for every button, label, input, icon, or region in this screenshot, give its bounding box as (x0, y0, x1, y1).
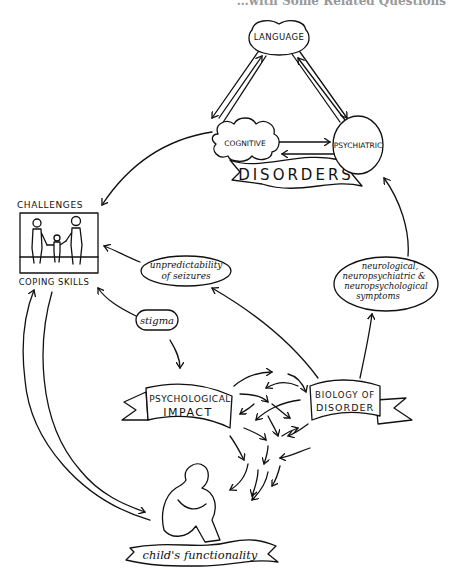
arrow-unpredictability-to-challenges (104, 246, 140, 262)
psych-impact-line1: PSYCHOLOGICAL (149, 394, 231, 404)
biology-banner: BIOLOGY OF DISORDER (310, 380, 412, 424)
arrows-to-child (230, 464, 280, 500)
arrow-stigma-to-psych-impact (170, 340, 180, 368)
symptoms-line4: symptoms (356, 291, 400, 301)
node-cognitive: COGNITIVE (212, 118, 279, 161)
challenges-label: CHALLENGES (17, 200, 83, 210)
node-language: LANGUAGE (249, 21, 309, 55)
psychiatric-label: PSYCHIATRIC (334, 141, 382, 150)
coping-skills-label: COPING SKILLS (19, 277, 90, 287)
symptoms-line3: neuropsychological (344, 281, 428, 291)
functionality-banner: child's functionality (126, 540, 278, 566)
psych-impact-banner: PSYCHOLOGICAL IMPACT (122, 384, 232, 428)
node-unpredictability: unpredictability of seizures (141, 256, 231, 286)
arrow-symptoms-to-disorders (384, 178, 408, 256)
disorders-label: DISORDERS (238, 166, 354, 184)
arrow-biology-to-unpredictability (212, 288, 318, 378)
symptoms-line1: neurological, (362, 261, 419, 271)
node-stigma: stigma (136, 310, 178, 330)
challenges-box: CHALLENGES COPING SKILLS (17, 200, 98, 287)
arrow-cognitive-to-challenges (102, 132, 212, 205)
cognitive-label: COGNITIVE (224, 139, 266, 148)
functionality-label: child's functionality (143, 548, 258, 562)
node-symptoms: neurological, neuropsychiatric & neurops… (334, 257, 438, 311)
biology-line2: DISORDER (316, 402, 374, 413)
biology-line1: BIOLOGY OF (315, 390, 375, 400)
stigma-label: stigma (140, 315, 174, 326)
language-label: LANGUAGE (254, 32, 305, 42)
unpredictability-line2: of seizures (161, 271, 211, 281)
arrow-stigma-to-challenges (98, 288, 136, 316)
unpredictability-line1: unpredictability (150, 260, 224, 270)
arrow-biology-to-symptoms (360, 314, 372, 378)
symptoms-line2: neuropsychiatric & (342, 271, 425, 281)
node-psychiatric: PSYCHIATRIC (333, 116, 383, 174)
epilepsy-impact-diagram: LANGUAGE DISORDERS COGNITIVE PSYCHIATRIC… (0, 0, 456, 583)
interaction-arrows (230, 372, 310, 464)
psych-impact-line2: IMPACT (163, 406, 212, 419)
child-illustration-icon (163, 464, 221, 542)
